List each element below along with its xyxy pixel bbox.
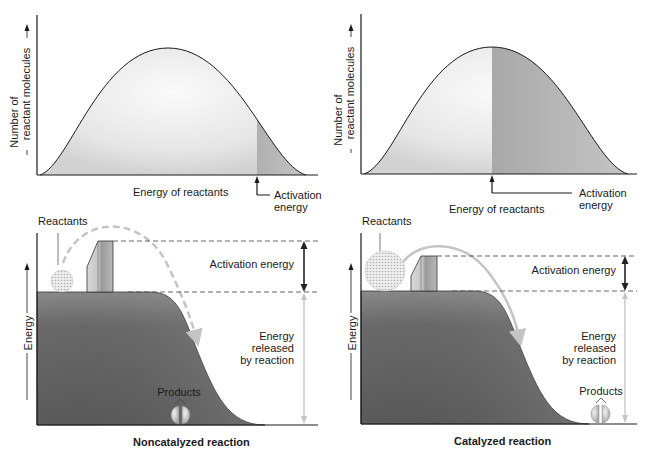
- y-axis-label: Energy: [346, 315, 358, 350]
- activation-label-line2: energy: [274, 201, 308, 213]
- y-axis-label-line1: Number of: [8, 95, 20, 147]
- activation-pointer: [492, 179, 572, 193]
- noncatalyzed-energy-diagram: Energy Reactants Activation energy Energ…: [20, 215, 318, 448]
- energy-diagram-figure: Number of reactant molecules Energy of r…: [0, 0, 650, 457]
- activation-label-line2: energy: [579, 199, 613, 211]
- activation-label-line1: Activation: [274, 189, 322, 201]
- y-axis-label-line2: reactant molecules: [20, 47, 32, 140]
- activation-shaded-region: [492, 40, 632, 175]
- activation-energy-label: Activation energy: [532, 264, 617, 276]
- arrow-up-icon: [25, 263, 30, 270]
- energy-released-line2: released: [252, 342, 294, 354]
- x-axis-label: Energy of reactants: [449, 203, 545, 215]
- arrow-down-icon: [301, 416, 307, 424]
- arrow-up-icon: [301, 293, 307, 300]
- activation-energy-label: Activation energy: [210, 258, 295, 270]
- arrow-up-icon: [490, 175, 495, 182]
- arrow-up-icon: [349, 24, 354, 31]
- diagram-title: Noncatalyzed reaction: [133, 436, 250, 448]
- diagram-title: Catalyzed reaction: [454, 435, 551, 447]
- energy-released-line3: by reaction: [562, 354, 616, 366]
- arrow-up-icon: [622, 292, 628, 299]
- arrow-up-icon: [622, 256, 629, 264]
- reactant-molecule: [365, 251, 405, 291]
- energy-released-line1: Energy: [581, 330, 616, 342]
- arrow-up-icon: [255, 176, 260, 183]
- top-left-distribution-chart: Number of reactant molecules Energy of r…: [8, 15, 322, 213]
- activation-shaded-region: [257, 40, 317, 176]
- activation-barrier-block: [87, 241, 113, 292]
- products-label: Products: [579, 385, 623, 397]
- arrow-down-icon: [622, 415, 628, 423]
- arrow-down-icon: [301, 284, 308, 292]
- catalyzed-energy-diagram: Energy Reactants Activation energy Energ…: [344, 215, 637, 447]
- y-axis-label-line2: reactant molecules: [344, 46, 356, 139]
- y-axis-label: Energy: [22, 315, 34, 350]
- reactants-label: Reactants: [38, 215, 88, 227]
- top-right-distribution-chart: Number of reactant molecules Activation …: [332, 14, 637, 215]
- reactants-label: Reactants: [362, 215, 412, 227]
- energy-released-line1: Energy: [259, 330, 294, 342]
- arrow-up-icon: [301, 241, 308, 249]
- energy-released-line2: released: [574, 342, 616, 354]
- activation-label-line1: Activation: [579, 187, 627, 199]
- arrow-up-icon: [349, 263, 354, 270]
- x-axis-label: Energy of reactants: [133, 186, 229, 198]
- product-molecules: [591, 405, 610, 423]
- activation-barrier-block: [411, 256, 437, 291]
- reactant-molecule: [51, 270, 73, 292]
- arrow-down-icon: [622, 283, 629, 291]
- arrow-up-icon: [25, 24, 30, 31]
- energy-released-line3: by reaction: [240, 354, 294, 366]
- y-axis-label-line1: Number of: [332, 93, 344, 145]
- products-label: Products: [157, 386, 201, 398]
